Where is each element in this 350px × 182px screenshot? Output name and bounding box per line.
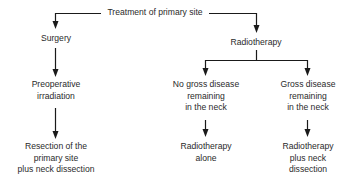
arrow-surgery-to-preoperative xyxy=(53,48,59,77)
root-node: Treatment of primary site xyxy=(107,7,202,19)
preoperative-irradiation-node: Preoperative irradiation xyxy=(32,79,81,102)
resection-node: Resection of the primary site plus neck … xyxy=(18,141,95,176)
radiotherapy-alone-node: Radiotherapy alone xyxy=(180,141,231,164)
arrow-gross-to-neck-dissection xyxy=(305,120,311,137)
surgery-node: Surgery xyxy=(41,33,71,45)
arrow-radiotherapy-split xyxy=(203,50,311,76)
arrow-preoperative-to-resection xyxy=(53,108,59,139)
radiotherapy-node: Radiotherapy xyxy=(230,37,281,49)
no-gross-disease-node: No gross disease remaining in the neck xyxy=(173,79,239,114)
arrow-root-to-surgery xyxy=(53,14,102,30)
arrow-root-to-radiotherapy xyxy=(209,14,260,34)
arrow-no-gross-to-alone xyxy=(203,120,209,137)
radiotherapy-plus-neck-dissection-node: Radiotherapy plus neck dissection xyxy=(282,141,333,176)
gross-disease-node: Gross disease remaining in the neck xyxy=(281,79,336,114)
